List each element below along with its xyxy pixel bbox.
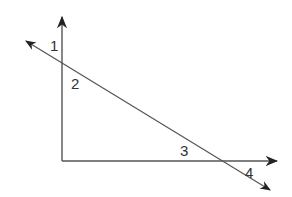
angle-diagram: 1 2 3 4 <box>0 0 292 197</box>
angle-label-2: 2 <box>71 75 79 92</box>
angle-label-1: 1 <box>50 37 58 54</box>
angle-label-3: 3 <box>180 142 188 159</box>
angle-label-4: 4 <box>245 164 253 181</box>
